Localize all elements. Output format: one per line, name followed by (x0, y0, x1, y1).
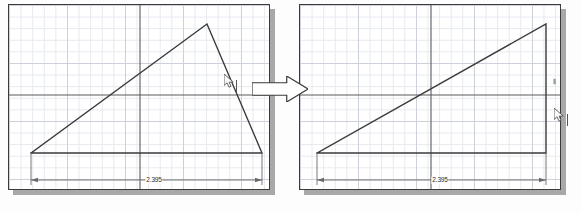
dimension-label[interactable]: 2.395 (431, 177, 448, 184)
sketch-panel-after-shadow-bottom (304, 190, 566, 195)
dim-arrow-left (31, 178, 38, 182)
dim-arrow-right (255, 178, 262, 182)
sketch-panel-after[interactable]: 2.395 (299, 4, 561, 190)
dim-arrow-right (539, 178, 546, 182)
sketch-panel-before[interactable]: 2.395 (8, 4, 270, 190)
transition-arrow (252, 76, 308, 102)
sketch-panel-before-shadow-bottom (13, 190, 275, 195)
sketch-panel-before-vector-layer (9, 5, 270, 190)
arrow-right-icon (252, 76, 308, 102)
dimension-label[interactable]: 2.395 (145, 177, 162, 184)
vertical-constraint-glyph[interactable]: ⦀ (553, 78, 555, 85)
mouse-cursor-after-text-caret (567, 114, 568, 126)
sketch-panel-after-wrapper: 2.395 (299, 4, 566, 195)
dim-arrow-left (317, 178, 324, 182)
sketch-panel-after-shadow-right (561, 9, 566, 195)
screenshot-stage: 2.3952.395⦀ (0, 0, 581, 213)
sketch-panel-before-wrapper: 2.395 (8, 4, 275, 195)
mouse-cursor-before-text-caret (236, 80, 237, 92)
sketch-panel-after-vector-layer (300, 5, 561, 190)
sketch-panel-before-geometry[interactable] (31, 24, 262, 153)
